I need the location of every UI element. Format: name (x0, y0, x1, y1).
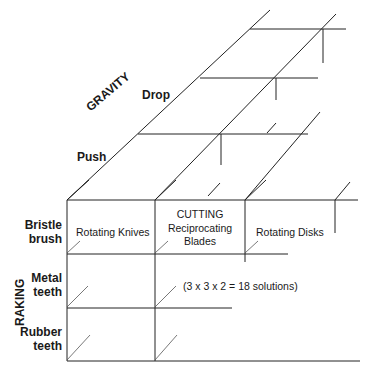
cutting-option-rotating-disks: Rotating Disks (256, 226, 324, 239)
rubber-line-1: Rubber (14, 325, 62, 339)
cutting-axis-label: CUTTING (155, 208, 245, 221)
raking-option-metal-teeth: Metal teeth (20, 271, 62, 299)
metal-line-1: Metal (20, 271, 62, 285)
raking-option-bristle-brush: Bristle brush (20, 218, 62, 246)
solutions-count-note: (3 x 3 x 2 = 18 solutions) (183, 280, 298, 293)
bristle-line-1: Bristle (20, 218, 62, 232)
recip-line-1: Reciprocating (155, 222, 245, 235)
morphological-box-diagram: GRAVITY Drop Push RAKING Bristle brush M… (0, 0, 366, 372)
metal-line-2: teeth (20, 285, 62, 299)
bristle-line-2: brush (20, 232, 62, 246)
rubber-line-2: teeth (14, 339, 62, 353)
raking-option-rubber-teeth: Rubber teeth (14, 325, 62, 353)
recip-line-2: Blades (155, 235, 245, 248)
gravity-option-drop: Drop (142, 89, 170, 102)
gravity-option-push: Push (77, 151, 106, 164)
box-grid-lines (0, 0, 366, 372)
cutting-option-rotating-knives: Rotating Knives (76, 226, 150, 239)
cutting-option-reciprocating-blades: Reciprocating Blades (155, 222, 245, 248)
